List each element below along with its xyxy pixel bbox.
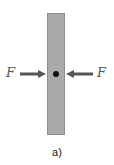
figure-caption: a)	[0, 146, 114, 158]
right-force-arrow	[66, 70, 93, 78]
force-arrows	[0, 0, 114, 165]
right-force-label: F	[97, 66, 106, 80]
force-diagram: F F a)	[0, 0, 114, 165]
center-point	[53, 71, 59, 77]
left-force-label: F	[6, 66, 15, 80]
left-force-arrow	[20, 70, 46, 78]
